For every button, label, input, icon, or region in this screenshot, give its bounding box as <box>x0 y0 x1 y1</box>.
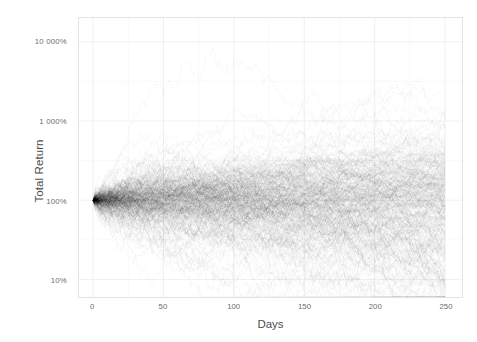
y-tick-label: 1 000% <box>39 116 67 125</box>
plot-panel <box>78 17 463 298</box>
x-tick-label: 200 <box>369 302 382 311</box>
x-tick-label: 100 <box>227 302 240 311</box>
y-tick-label: 10 000% <box>35 37 67 46</box>
simulation-paths <box>79 18 462 297</box>
x-tick-label: 0 <box>90 302 94 311</box>
y-tick-label: 10% <box>51 276 67 285</box>
chart-container: Total Return 10 000%1 000%100%10% 050100… <box>0 0 477 342</box>
x-tick-label: 50 <box>159 302 168 311</box>
y-tick-label: 100% <box>46 196 67 205</box>
y-axis-tick-labels: 10 000%1 000%100%10% <box>0 0 72 342</box>
x-tick-label: 250 <box>439 302 452 311</box>
x-tick-label: 150 <box>298 302 311 311</box>
x-axis-title: Days <box>78 318 463 330</box>
